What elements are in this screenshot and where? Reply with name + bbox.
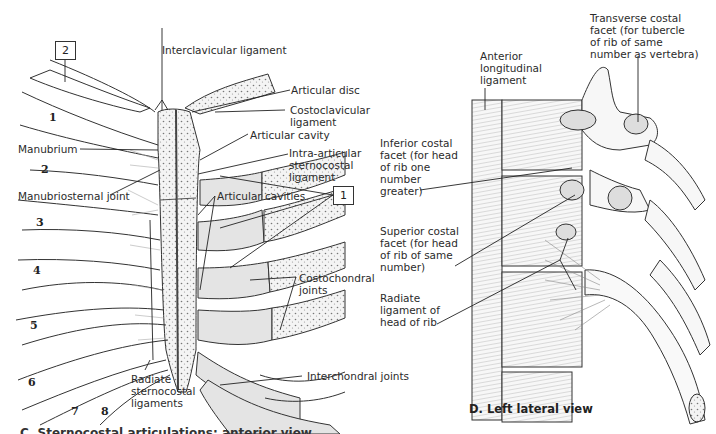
label-superior-costal-facet: Superior costal facet (for head of rib o… [380,225,459,273]
label-interchondral-joints: Interchondral joints [307,370,409,382]
clavicle-right [185,74,275,114]
caption-left-clipped: C. Sternocostal articulations: anterior … [20,426,312,434]
label-articular-disc: Articular disc [291,84,360,96]
caption-left-lateral-view: D. Left lateral view [469,402,593,416]
vertebral-bodies [502,100,582,422]
label-costoclavicular-ligament: Costoclavicular ligament [290,104,370,128]
label-radiate-ligament-of-head-of-rib: Radiate ligament of head of rib [380,292,440,328]
anterior-longitudinal-ligament-band [472,100,502,420]
anatomy-figure: 2 1 1 2 3 4 5 6 7 8 Interclavicular liga… [0,0,716,434]
label-interclavicular-ligament: Interclavicular ligament [162,44,287,56]
label-radiate-sternocostal-ligaments: Radiate sternocostal ligaments [131,373,195,409]
rib-number-8: 8 [101,405,109,418]
rib-number-6: 6 [28,376,36,389]
label-transverse-costal-facet: Transverse costal facet (for tubercle of… [590,12,699,60]
label-manubriosternal-joint: Manubriosternal joint [18,190,130,202]
label-inferior-costal-facet: Inferior costal facet (for head of rib o… [380,137,458,197]
label-box-2: 2 [55,41,76,60]
label-costochondral-joints: Costochondral joints [299,272,375,296]
rib-lateral [585,270,705,424]
illustration [0,0,716,434]
label-articular-cavity: Articular cavity [250,129,330,141]
rib-number-2: 2 [41,163,49,176]
label-box-1: 1 [333,186,354,205]
label-anterior-longitudinal-ligament: Anterior longitudinal ligament [480,50,542,86]
rib-number-1: 1 [49,111,57,124]
label-manubrium: Manubrium [18,143,78,155]
rib-number-5: 5 [30,319,38,332]
sternum [158,109,200,392]
rib-number-4: 4 [33,264,41,277]
rib-number-7: 7 [71,405,79,418]
rib-number-3: 3 [36,216,44,229]
label-articular-cavities: Articular cavities [217,190,305,202]
label-intra-articular-ligament: Intra-articular sternocostal ligament [289,147,361,183]
